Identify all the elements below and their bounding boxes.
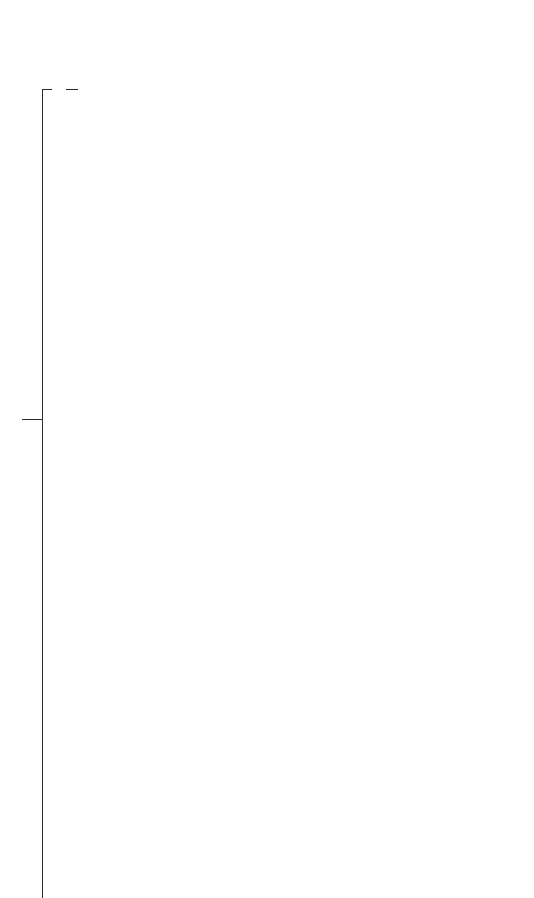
- connector: [66, 89, 78, 90]
- connector-main-generation: [42, 90, 43, 898]
- connector: [42, 89, 52, 90]
- genealogy-chart: [0, 0, 534, 898]
- connector: [22, 419, 42, 420]
